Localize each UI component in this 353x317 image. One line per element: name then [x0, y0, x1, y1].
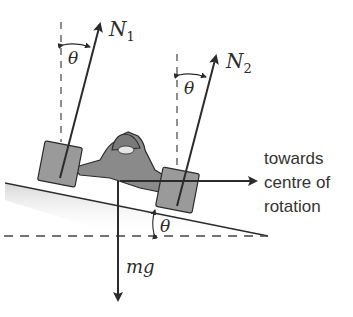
direction-label-line1: towards	[264, 149, 324, 168]
direction-label-line3: rotation	[264, 197, 321, 216]
theta-label-right: θ	[184, 78, 194, 98]
theta-label-bank: θ	[160, 216, 170, 236]
n2-label: N2	[225, 49, 252, 76]
direction-label-line2: centre of	[264, 173, 330, 192]
banked-car-force-diagram: N1 N2 θ θ θ mg towards centre of rotatio…	[0, 0, 353, 317]
n1-label: N1	[108, 17, 135, 44]
driver-helmet	[118, 146, 134, 154]
wheel-left	[38, 141, 83, 188]
theta-arc-right	[179, 74, 206, 77]
wheel-right	[156, 167, 200, 213]
weight-label: mg	[126, 256, 155, 277]
theta-label-left: θ	[68, 48, 78, 68]
theta-arc-left	[63, 44, 90, 47]
